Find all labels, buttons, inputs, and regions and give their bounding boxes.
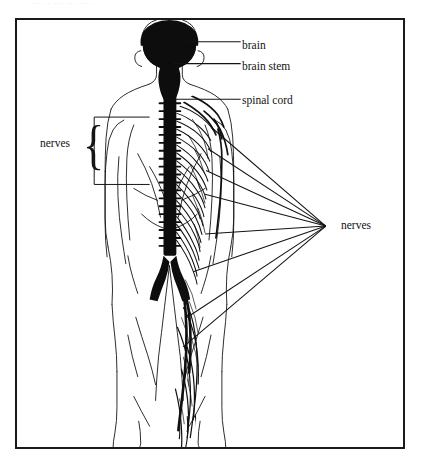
label-brain: brain <box>242 40 266 52</box>
nerves-right-leader-lines <box>183 127 326 347</box>
brain-and-cord <box>140 20 198 301</box>
nerves-left-brace-icon: { <box>83 118 104 173</box>
label-nerves-left: nerves <box>40 138 70 150</box>
nervous-system-illustration <box>17 20 403 447</box>
cut-off-header-text: ··· ·· ··· ·· ····· <box>32 0 172 8</box>
label-brain-stem: brain stem <box>242 61 290 73</box>
label-nerves-right: nerves <box>341 220 371 232</box>
figure-frame <box>15 18 405 449</box>
label-spinal-cord: spinal cord <box>242 95 293 107</box>
